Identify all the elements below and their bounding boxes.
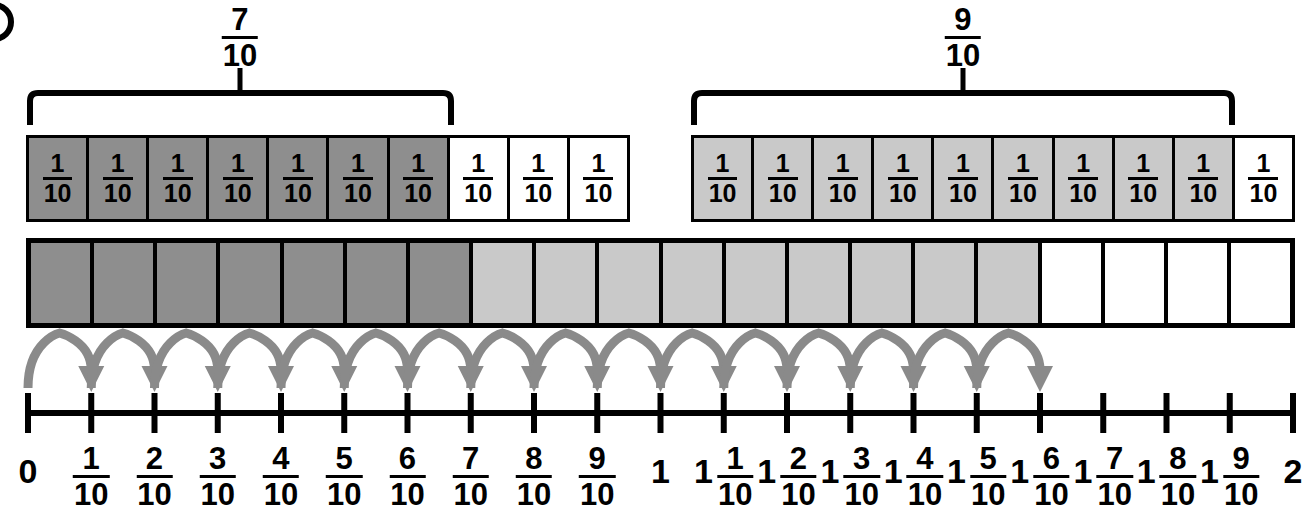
- fraction-numerator: 1: [955, 151, 971, 177]
- fraction-denominator: 10: [1188, 180, 1218, 206]
- fraction-numerator: 1: [775, 151, 791, 177]
- number-line-label-fraction: 110: [73, 443, 109, 510]
- fraction-one-tenth: 110: [708, 151, 738, 206]
- fraction-denominator: 10: [200, 478, 236, 510]
- hop-arrowhead: [584, 366, 610, 392]
- model-bar-twenty-cells: [26, 238, 1295, 328]
- fraction-denominator: 10: [523, 180, 553, 206]
- fraction-denominator: 10: [828, 180, 858, 206]
- number-line-label: 1610: [1010, 443, 1069, 510]
- number-line-label: 1210: [757, 443, 816, 510]
- fraction-denominator: 10: [1248, 180, 1278, 206]
- hop-arrowhead: [458, 366, 484, 392]
- fraction-one-tenth: 110: [948, 151, 978, 206]
- hop-arrowhead: [395, 366, 421, 392]
- fraction-numerator: 1: [470, 151, 486, 177]
- fraction-one-tenth: 110: [403, 151, 433, 206]
- fraction-denominator: 10: [768, 180, 798, 206]
- fraction-numerator: 1: [170, 151, 186, 177]
- number-line-label: 1710: [1074, 443, 1133, 510]
- number-line-label: 810: [516, 443, 552, 510]
- fraction-denominator: 10: [163, 180, 193, 206]
- number-line-label-fraction: 210: [136, 443, 172, 510]
- unit-tile: 110: [450, 138, 507, 219]
- fraction-numerator: 4: [271, 443, 290, 475]
- fraction-denominator: 10: [780, 478, 816, 510]
- fraction-numerator: 1: [1195, 151, 1211, 177]
- number-line-label: 710: [453, 443, 489, 510]
- hop-arc: [597, 333, 660, 388]
- fraction-one-tenth: 110: [463, 151, 493, 206]
- number-line-label-fraction: 310: [843, 443, 879, 510]
- number-line-label: 610: [389, 443, 425, 510]
- model-bar-cell: [852, 243, 911, 323]
- fraction-numerator: 1: [835, 151, 851, 177]
- fraction-one-tenth: 110: [888, 151, 918, 206]
- number-line-label: 1310: [821, 443, 880, 510]
- hop-arrowhead: [901, 366, 927, 392]
- unit-tile: 110: [874, 138, 931, 219]
- model-bar-cell: [663, 243, 722, 323]
- fraction-denominator: 10: [1068, 180, 1098, 206]
- hop-arrowhead: [142, 366, 168, 392]
- fraction-numerator: 2: [789, 443, 808, 475]
- fraction-numerator: 6: [398, 443, 417, 475]
- hop-arc: [281, 333, 344, 388]
- model-bar-cell: [1231, 243, 1290, 323]
- hop-arrowhead: [78, 366, 104, 392]
- fraction-numerator: 1: [530, 151, 546, 177]
- tile-strip-left: 110110110110110110110110110110: [26, 135, 630, 222]
- fraction-numerator: 9: [588, 443, 607, 475]
- fraction-one-tenth: 110: [523, 151, 553, 206]
- hop-arc: [408, 333, 471, 388]
- number-line-label-whole: 1: [947, 454, 970, 488]
- unit-tile: 110: [994, 138, 1051, 219]
- unit-tile: 110: [1115, 138, 1172, 219]
- model-bar-cell: [536, 243, 595, 323]
- number-line-label: 2: [1284, 443, 1303, 477]
- hop-arc: [787, 333, 850, 388]
- unit-tile: 110: [934, 138, 991, 219]
- fraction-denominator: 10: [73, 478, 109, 510]
- fraction-numerator: 7: [1105, 443, 1124, 475]
- fraction-denominator: 10: [888, 180, 918, 206]
- hop-arrowhead: [205, 366, 231, 392]
- model-bar-cell: [978, 243, 1037, 323]
- fraction-one-tenth: 110: [768, 151, 798, 206]
- fraction-denominator: 10: [343, 180, 373, 206]
- hop-arc: [534, 333, 597, 388]
- number-line-label: 1910: [1200, 443, 1259, 510]
- fraction-denominator: 10: [970, 478, 1006, 510]
- number-line-label: 1110: [694, 443, 753, 510]
- number-line-label-fraction: 910: [1223, 443, 1259, 510]
- fraction-denominator: 10: [263, 478, 299, 510]
- model-bar-cell: [157, 243, 216, 323]
- fraction-one-tenth: 110: [163, 151, 193, 206]
- fraction-numerator: 1: [1075, 151, 1091, 177]
- fraction-seven-tenths: 7 10: [222, 4, 258, 71]
- fraction-denominator: 10: [283, 180, 313, 206]
- unit-tile: 110: [89, 138, 146, 219]
- number-line-label: 1: [651, 443, 670, 477]
- number-line-label-whole: 0: [19, 454, 38, 488]
- brace-label-right: 9 10: [945, 4, 981, 71]
- number-line-label-fraction: 410: [907, 443, 943, 510]
- fraction-numerator: 7: [461, 443, 480, 475]
- number-line-label-fraction: 710: [1096, 443, 1132, 510]
- worksheet-figure: 7 10 9 10 110110110110110110110110110110…: [0, 0, 1305, 524]
- fraction-numerator: 1: [1015, 151, 1031, 177]
- fraction-nine-tenths: 9 10: [945, 4, 981, 71]
- fraction-one-tenth: 110: [828, 151, 858, 206]
- number-line-label-whole: 1: [1200, 454, 1223, 488]
- fraction-denominator: 10: [1008, 180, 1038, 206]
- hop-arc: [661, 333, 724, 388]
- fraction-one-tenth: 110: [283, 151, 313, 206]
- model-bar-cell: [1042, 243, 1101, 323]
- number-line-label-fraction: 610: [389, 443, 425, 510]
- fraction-numerator: 1: [1135, 151, 1151, 177]
- number-line-label-whole: 1: [694, 454, 717, 488]
- fraction-numerator: 1: [50, 151, 66, 177]
- unit-tile: 110: [329, 138, 386, 219]
- hop-arrowhead: [648, 366, 674, 392]
- unit-tile: 110: [570, 138, 627, 219]
